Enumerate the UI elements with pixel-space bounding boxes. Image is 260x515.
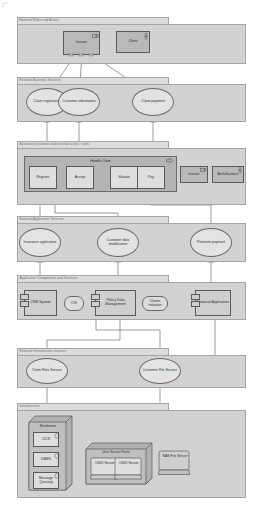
node-customer-file-service[interactable]: Customer File Service [139, 358, 181, 384]
node-customer-information[interactable]: Customer information [58, 88, 100, 116]
node-label: Valuate [118, 176, 130, 180]
node-process-pay[interactable]: Pay [137, 166, 165, 189]
component-tab-icon [91, 301, 100, 307]
node-label: Client [129, 40, 138, 44]
component-tab-icon [20, 301, 29, 307]
component-tab-icon [91, 294, 100, 300]
node-label: Insurer [189, 173, 200, 177]
business-role-icon [200, 167, 207, 173]
corner-artifact [3, 3, 9, 9]
node-claims-initiation-service[interactable]: Claims initiation [142, 296, 168, 311]
diagram-canvas: External Roles and Actors Insurer Client… [0, 0, 260, 515]
business-actor-icon [237, 167, 243, 174]
business-actor-icon [143, 33, 149, 40]
node-insurance-application[interactable]: Insurance application [19, 228, 61, 257]
node-label: Customer information [60, 100, 98, 104]
system-software-icon [54, 453, 60, 459]
node-label: Pay [148, 176, 154, 180]
node-label: Premium payment [192, 241, 230, 245]
node-policy-data-management[interactable]: Policy Data Management [95, 290, 136, 316]
band-label: Application Components and Services [20, 276, 77, 280]
component-tab-icon [191, 294, 200, 300]
band-label: Infrastructure [20, 404, 40, 408]
node-label: Policy Data Management [97, 299, 135, 307]
node-label: Financial Application [197, 301, 230, 305]
node-process-accept[interactable]: Accept [66, 166, 94, 189]
node-label: CICS [42, 438, 50, 442]
band-label: External infrastructure services [20, 349, 67, 353]
node-unix-server-2[interactable] [114, 457, 144, 483]
node-claim-files-service[interactable]: Claim Files Service [26, 358, 68, 384]
node-claim-payment[interactable]: Claim payment [132, 88, 174, 116]
node-label: CRM System [26, 301, 56, 305]
node-label: Claim payment [134, 100, 172, 104]
node-label: Claim Files Service [28, 369, 66, 373]
node-premium-payment[interactable]: Premium payment [190, 228, 232, 257]
node-label: Insurer [76, 41, 87, 45]
node-label: Register [36, 176, 49, 180]
node-financial-application[interactable]: Financial Application [195, 290, 231, 316]
band-label: External Roles and Actors [20, 18, 59, 22]
node-nas-file-server[interactable] [158, 450, 194, 478]
node-label: Customer File Service [141, 369, 179, 373]
component-tab-icon [191, 301, 200, 307]
system-software-icon [54, 433, 60, 439]
node-label: Accept [75, 176, 86, 180]
node-label: Customer data modification [99, 239, 138, 247]
node-process-register[interactable]: Register [29, 166, 57, 189]
group-label: Handle Claim [25, 159, 176, 163]
system-software-icon [54, 473, 60, 479]
node-label: ArchiSurance [218, 173, 239, 177]
node-label: DBMS [41, 458, 51, 462]
business-process-icon [166, 158, 174, 163]
role-ports [63, 53, 100, 58]
node-label: Insurance application [21, 241, 59, 245]
node-cis-service[interactable]: CIS [64, 296, 84, 311]
band-label: Business processes and internal actors /… [20, 142, 90, 146]
node-label: CIS [71, 302, 77, 306]
band-label: External Application Services [20, 217, 64, 221]
node-customer-data-modification[interactable]: Customer data modification [97, 228, 139, 257]
band-label: External Business Services [20, 78, 61, 82]
node-label: Claims initiation [143, 300, 167, 308]
component-tab-icon [20, 294, 29, 300]
node-process-valuate[interactable]: Valuate [110, 166, 138, 189]
business-role-icon [92, 33, 99, 39]
